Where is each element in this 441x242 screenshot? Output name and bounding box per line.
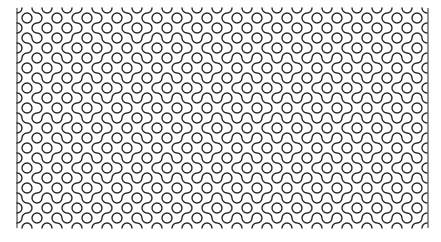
background — [0, 0, 441, 242]
truchet-pattern — [0, 0, 441, 242]
